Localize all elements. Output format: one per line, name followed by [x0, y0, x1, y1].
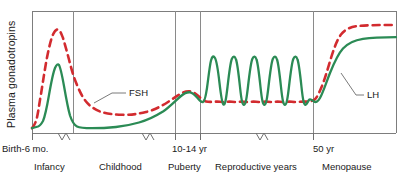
break-mark-childhood	[142, 133, 154, 140]
axis-break-marks	[58, 133, 268, 140]
tick-label-menopause-age: 50 yr	[313, 143, 334, 154]
stage-label-puberty: Puberty	[168, 161, 201, 172]
stage-label-reproductive: Reproductive years	[215, 161, 297, 172]
stage-label-childhood: Childhood	[99, 161, 142, 172]
break-mark-infancy	[58, 133, 70, 140]
lh-label: LH	[367, 89, 379, 100]
fsh-leader-line	[94, 93, 126, 103]
y-axis-title: Plasma gonadotropins	[5, 21, 17, 128]
tick-label-birth: Birth-6 mo.	[2, 143, 48, 154]
series-curve-fsh	[32, 25, 396, 128]
axis-ticks	[32, 133, 313, 140]
stage-label-infancy: Infancy	[34, 161, 65, 172]
tick-label-puberty-age: 10-14 yr	[172, 143, 207, 154]
lh-leader-line	[341, 73, 364, 95]
annotation-lh: LH	[341, 73, 379, 100]
annotation-fsh: FSH	[94, 87, 148, 103]
chart-canvas: FSH LH Plasma gonadotropins Birth-6 mo. …	[0, 0, 405, 176]
break-mark-reproductive	[256, 133, 268, 140]
plot-frame	[32, 11, 396, 133]
stage-label-menopause: Menopause	[322, 161, 372, 172]
fsh-label: FSH	[129, 87, 148, 98]
gonadotropin-lifespan-chart: FSH LH Plasma gonadotropins Birth-6 mo. …	[0, 0, 405, 176]
series-curve-lh	[32, 37, 396, 128]
